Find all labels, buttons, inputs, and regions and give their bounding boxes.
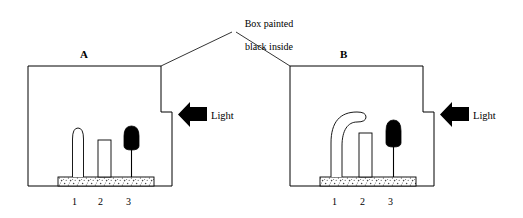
soil-tray-a <box>58 177 154 186</box>
specimen-a-3-opaque-cap <box>124 126 139 150</box>
specimen-a-1-intact-coleoptile <box>73 128 84 177</box>
specimen-a-2-decapitated-coleoptile <box>98 140 111 177</box>
specimen-number-b-3: 3 <box>388 196 393 207</box>
caption-box-painted-black: Box painted black inside <box>219 6 309 64</box>
specimen-number-b-2: 2 <box>360 196 365 207</box>
box-a <box>28 66 207 186</box>
specimen-number-a-1: 1 <box>72 196 77 207</box>
panel-letter-a: A <box>80 48 88 60</box>
light-label-a: Light <box>211 110 234 121</box>
soil-tray-a-body <box>58 177 154 186</box>
panel-letter-b: B <box>340 48 347 60</box>
light-arrow-b-glyph <box>440 102 469 127</box>
specimen-number-a-2: 2 <box>98 196 103 207</box>
specimen-number-b-1: 1 <box>332 196 337 207</box>
light-label-b: Light <box>473 110 496 121</box>
soil-tray-b-body <box>320 177 416 186</box>
box-b <box>290 66 469 186</box>
light-arrow-a-glyph <box>178 102 207 127</box>
light-arrow-b <box>440 102 469 127</box>
caption-line-1: Box painted <box>245 18 294 29</box>
specimen-a-1-body <box>73 128 84 177</box>
specimen-b-2-decapitated-coleoptile <box>359 133 372 177</box>
phototropism-diagram: Box painted black inside A B Light Light… <box>0 0 523 218</box>
light-arrow-a <box>178 102 207 127</box>
soil-tray-b <box>320 177 416 186</box>
specimen-number-a-3: 3 <box>126 196 131 207</box>
specimen-a-2-body <box>98 140 111 177</box>
specimen-b-3-opaque-cap <box>386 120 401 147</box>
specimen-b-2-body <box>359 133 372 177</box>
caption-line-2: black inside <box>245 41 293 52</box>
